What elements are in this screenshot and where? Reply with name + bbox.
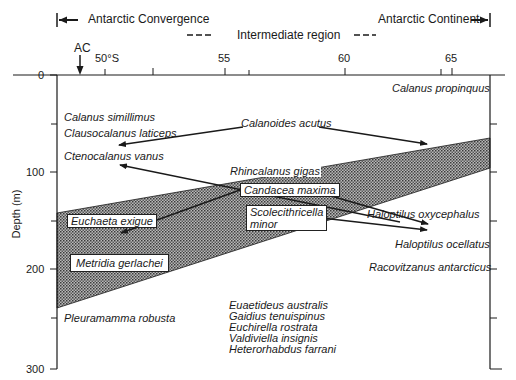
antarctic-continent-label: Antarctic Continent [378,13,479,25]
deep-species-5: Heterorhabdus farrani [229,344,336,355]
y-tick-300: 300 [26,363,44,375]
species-calanus-simillimus: Calanus simillimus [64,111,155,123]
species-racovitzanus-antarcticus: Racovitzanus antarcticus [369,261,491,273]
species-clausocalanus-laticeps: Clausocalanus laticeps [64,127,177,139]
depth-axis-right [490,75,502,369]
y-tick-100: 100 [26,166,44,178]
y-axis-title: Depth (m) [10,190,22,239]
antarctic-convergence-label: Antarctic Convergence [88,13,209,25]
species-scolecithricella-minor: Scolecithricella minor [246,205,327,231]
species-pleuramamma-robusta: Pleuramamma robusta [64,312,175,324]
species-calanus-propinquus: Calanus propinquus [392,82,490,94]
latitude-axis [13,68,505,75]
scolecithricella-line1: Scolecithricella [250,206,323,218]
y-tick-0: 0 [38,69,44,81]
species-haloptilus-oxycephalus: Haloptilus oxycephalus [367,208,480,220]
antarctic-convergence-indicator [57,13,78,27]
species-candacea-maxima: Candacea maxima [240,183,340,197]
species-rhincalanus-gigas: Rhincalanus gigas [229,165,321,177]
species-euchaeta-exigue: Euchaeta exigue [67,214,157,228]
deep-species-group: Euaetideus australis Gaidius tenuispinus… [229,300,336,355]
species-calanoides-acutus: Calanoides acutus [241,117,332,129]
x-tick-50: 50°S [95,52,119,64]
scolecithricella-line2: minor [250,218,323,230]
species-haloptilus-ocellatus: Haloptilus ocellatus [395,238,490,250]
x-tick-65: 65 [445,52,457,64]
ac-arrow-icon [77,55,84,75]
x-tick-60: 60 [338,52,350,64]
x-tick-55: 55 [218,52,230,64]
intermediate-region-label: Intermediate region [237,29,340,41]
species-metridia-gerlachei: Metridia gerlachei [70,254,169,272]
depth-axis-left [50,75,57,369]
y-tick-200: 200 [26,263,44,275]
ac-label: AC [74,42,91,54]
species-ctenocalanus-vanus: Ctenocalanus vanus [64,150,164,162]
